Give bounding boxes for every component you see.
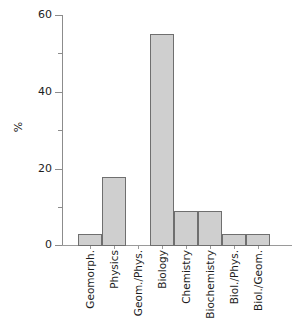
x-tick-label-geomorph-slot: Geomorph.: [83, 250, 97, 322]
x-tick-label-chemistry-slot: Chemistry: [179, 250, 193, 322]
bar-geomorph[interactable]: [78, 234, 102, 246]
x-tick-label-biology-slot: Biology: [155, 250, 169, 322]
y-tick-label-0-wrap: 0: [18, 238, 52, 252]
x-tick-label-geomorph: Geomorph.: [84, 250, 96, 309]
y-tick-label-0: 0: [22, 238, 52, 251]
x-tick-label-biol-geom-slot: Biol./Geom.: [251, 250, 265, 322]
x-tick-label-biochemistry-slot: Biochemistry: [203, 250, 217, 322]
x-tick-label-physics: Physics: [108, 250, 120, 289]
x-tick-label-biol-phys-slot: Biol./Phys.: [227, 250, 241, 322]
y-tick-label-40: 40: [22, 85, 52, 98]
plot-area: [62, 15, 292, 246]
bar-biochemistry[interactable]: [198, 211, 222, 246]
x-tick-label-geom-phys-slot: Geom./Phys.: [131, 250, 145, 322]
x-tick-geomorph: [90, 246, 91, 249]
x-tick-label-biol-geom: Biol./Geom.: [252, 250, 264, 311]
bar-chemistry[interactable]: [174, 211, 198, 246]
x-tick-biol-phys: [234, 246, 235, 249]
x-tick-label-biol-phys: Biol./Phys.: [228, 250, 240, 304]
x-tick-label-geom-phys: Geom./Phys.: [132, 250, 144, 316]
x-tick-chemistry: [186, 246, 187, 249]
bar-biology[interactable]: [150, 34, 174, 246]
bar-physics[interactable]: [102, 177, 126, 246]
x-tick-geom-phys: [138, 246, 139, 249]
x-tick-label-biochemistry: Biochemistry: [204, 250, 216, 319]
x-tick-biochemistry: [210, 246, 211, 249]
y-tick-label-60-wrap: 60: [18, 8, 52, 22]
bar-chart-figure: % 60 40 20 0 Geomorph.: [0, 0, 306, 324]
y-tick-label-20: 20: [22, 162, 52, 175]
y-tick-label-40-wrap: 40: [18, 85, 52, 99]
bar-biol-phys[interactable]: [222, 234, 246, 246]
x-tick-biology: [162, 246, 163, 249]
y-axis-label: %: [4, 116, 34, 138]
x-tick-label-biology: Biology: [156, 250, 168, 289]
x-tick-label-physics-slot: Physics: [107, 250, 121, 322]
y-tick-label-20-wrap: 20: [18, 162, 52, 176]
y-tick-label-60: 60: [22, 8, 52, 21]
x-tick-biol-geom: [258, 246, 259, 249]
bar-biol-geom[interactable]: [246, 234, 270, 246]
x-tick-label-chemistry: Chemistry: [180, 250, 192, 304]
x-tick-physics: [114, 246, 115, 249]
